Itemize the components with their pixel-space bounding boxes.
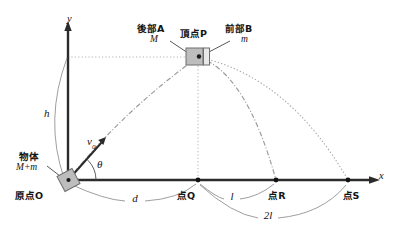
apex-label: 頂点P [180, 29, 207, 39]
front-part-label: 前部B [225, 24, 252, 34]
point-r-label: 点R [268, 191, 285, 201]
trajectory-ascent-path [68, 57, 198, 180]
leader-line-front-part [207, 41, 230, 53]
point-r-dot [274, 178, 279, 183]
point-q-label: 点Q [177, 191, 195, 201]
point-s-label: 点S [343, 191, 360, 201]
origin-point-dot [66, 178, 70, 182]
height-label-h: h [44, 108, 50, 120]
point-s-dot [346, 178, 351, 183]
y-axis-label: y [67, 13, 72, 24]
distance-d-label: d [132, 193, 138, 205]
trajectory-rear-part-path [198, 57, 276, 180]
initial-velocity-subscript: 0 [92, 143, 96, 151]
x-axis-label: x [379, 170, 384, 181]
rear-part-label: 後部A [137, 24, 164, 34]
apex-block-front-part-b [204, 48, 210, 65]
object-label: 物体 [19, 152, 39, 162]
distance-l-label: l [230, 191, 233, 203]
angle-label-theta: θ [97, 159, 102, 171]
initial-velocity-label: v0 [87, 132, 95, 152]
origin-label: 原点O [15, 191, 43, 201]
physics-diagram: y x h v0 θ 物体 M+m 原点O 後部A M 頂点P 前部B m 点Q… [0, 0, 393, 233]
trajectory-front-part-path [198, 57, 348, 180]
distance-2l-label: 2l [264, 210, 273, 222]
front-part-mass-label: m [241, 35, 248, 45]
measure-arc-2l-right [278, 185, 346, 218]
object-mass-label: M+m [16, 163, 37, 173]
measure-arc-l-left [200, 184, 224, 199]
apex-point-dot [197, 54, 201, 58]
measure-arc-h [55, 58, 67, 178]
measure-arc-d-left [70, 184, 125, 201]
point-q-dot [196, 178, 201, 183]
angle-theta-arc [88, 160, 96, 180]
leader-line-object [47, 166, 60, 176]
leader-line-rear-part [170, 41, 188, 53]
measure-arc-2l-left [200, 185, 258, 218]
rear-part-mass-label: M [150, 35, 158, 45]
